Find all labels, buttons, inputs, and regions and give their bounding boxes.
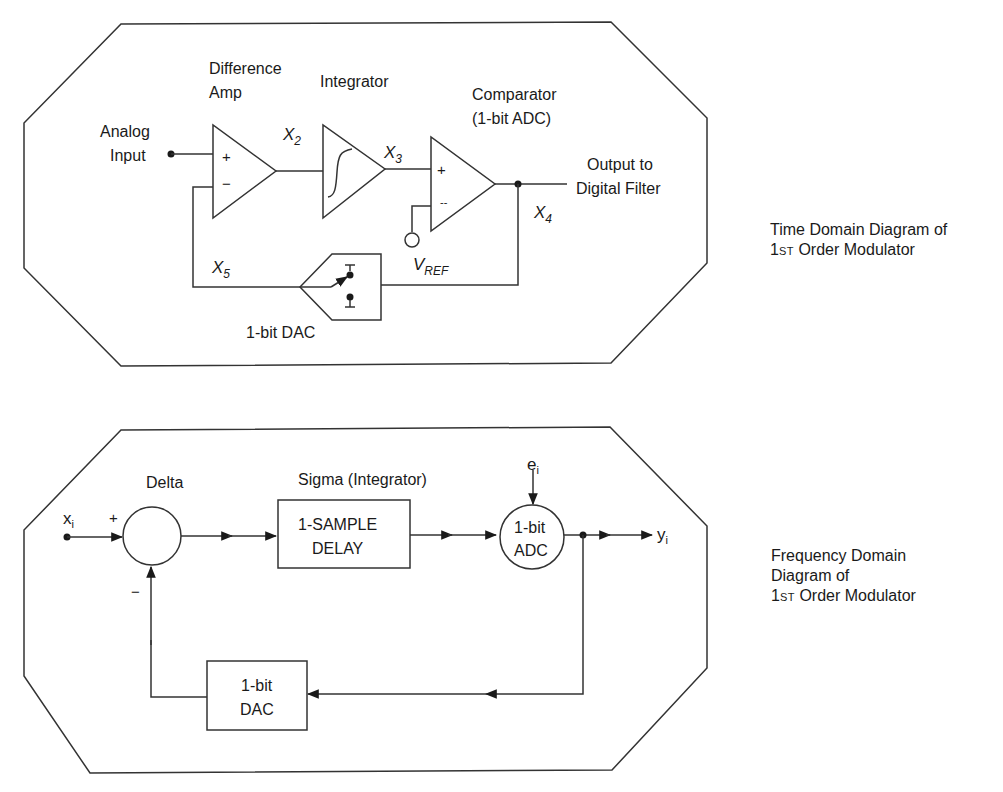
difference-amp-label-line2: Amp (209, 84, 242, 101)
diff-amp-plus-sign: + (222, 148, 231, 165)
delay-label-line1: 1-SAMPLE (298, 516, 377, 533)
integrator-symbol (323, 125, 385, 218)
comparator-label-line1: Comparator (472, 86, 557, 103)
diff-amp-minus-sign: − (222, 175, 231, 192)
xi-label: xi (63, 509, 74, 530)
one-sample-delay-block (278, 500, 410, 568)
sigma-label: Sigma (Integrator) (298, 471, 427, 488)
time-domain-caption-line2: 1ST Order Modulator (770, 240, 947, 261)
one-bit-adc-circle (500, 505, 564, 569)
frequency-domain-caption-line3: 1ST Order Modulator (771, 586, 916, 607)
time-domain-caption-line1: Time Domain Diagram of (770, 220, 947, 240)
dac-label-line2: DAC (240, 701, 274, 718)
frequency-domain-caption-line1: Frequency Domain (771, 546, 916, 566)
node-x3-label: X3 (383, 143, 402, 166)
comparator-minus-sign: -- (440, 196, 448, 208)
dac-label-line1: 1-bit (241, 677, 273, 694)
ei-label: ei (527, 455, 539, 476)
output-label-line2: Digital Filter (576, 180, 661, 197)
dac-switch-contact-bottom (347, 294, 354, 301)
dac-label: 1-bit DAC (246, 324, 315, 341)
summer-plus-sign: + (109, 509, 118, 526)
time-domain-caption: Time Domain Diagram of 1ST Order Modulat… (770, 220, 947, 261)
difference-amp-label-line1: Difference (209, 60, 282, 77)
analog-input-label-line1: Analog (100, 123, 150, 140)
summer-minus-sign: − (131, 583, 140, 600)
frequency-domain-caption: Frequency Domain Diagram of 1ST Order Mo… (771, 546, 916, 607)
node-x5-label: X5 (211, 258, 230, 281)
analog-input-label-line2: Input (110, 147, 146, 164)
output-label-line1: Output to (587, 156, 653, 173)
integral-curve-icon (328, 149, 352, 197)
adc-label-line2: ADC (514, 542, 548, 559)
yi-label: yi (657, 525, 668, 546)
comparator-plus-sign: + (437, 161, 446, 178)
one-bit-dac-block (207, 661, 307, 730)
frequency-domain-caption-line2: Diagram of (771, 566, 916, 586)
node-x2-label: X2 (282, 125, 301, 148)
integrator-label: Integrator (320, 73, 389, 90)
modulator-diagram: Difference Amp Integrator Comparator (1-… (0, 0, 1003, 792)
vref-label: VREF (413, 255, 449, 278)
comparator-symbol (431, 137, 495, 231)
difference-amp-symbol (213, 125, 276, 218)
dac-switch-contact-top (347, 272, 354, 279)
comparator-label-line2: (1-bit ADC) (472, 110, 551, 127)
delta-summing-junction (123, 507, 181, 565)
node-x4-label: X4 (533, 203, 552, 226)
vref-terminal (405, 233, 419, 247)
delta-label: Delta (146, 474, 183, 491)
adc-label-line1: 1-bit (514, 519, 546, 536)
frequency-domain-labels: Delta Sigma (Integrator) 1-SAMPLE DELAY … (63, 455, 668, 718)
delay-label-line2: DELAY (312, 540, 364, 557)
